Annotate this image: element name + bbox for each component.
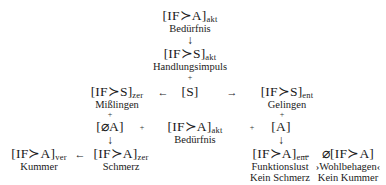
arrow-down-icon: ↓: [275, 134, 287, 146]
formula: [IF≻S]: [91, 84, 133, 99]
arrow-right-icon: →: [300, 148, 312, 160]
node-need: [IF≻A]akt Bedürfnis: [150, 8, 230, 34]
node-wellbeing: ⌀[IF≻A] ›Wohlbehagen‹ Kein Kummer: [312, 146, 384, 183]
formula: [IF≻A]: [94, 146, 138, 161]
label: Gelingen: [252, 99, 322, 110]
plus-icon: +: [186, 74, 194, 82]
arrow-left-icon: ←: [157, 86, 169, 98]
node-a: [A]: [268, 119, 294, 134]
plus-icon: +: [138, 124, 146, 132]
arrow-down-icon: ↓: [184, 34, 196, 46]
formula: [IF≻A]: [11, 146, 55, 161]
plus-icon: +: [106, 111, 114, 119]
node-need-2: [IF≻A]akt Bedürfnis: [155, 119, 235, 145]
node-grief: [IF≻A]ver Kummer: [6, 146, 72, 172]
label: Mißlingen: [82, 99, 152, 110]
formula: [IF≻A]: [253, 146, 297, 161]
plus-icon: +: [278, 111, 286, 119]
formula: [IF≻S]: [164, 46, 206, 61]
formula: [IF≻A]: [168, 119, 212, 134]
label: Bedürfnis: [155, 134, 235, 145]
node-success: [IF≻S]ent Gelingen: [252, 84, 322, 110]
arrow-down-icon: ↓: [104, 134, 116, 146]
formula: [IF≻A]: [163, 8, 207, 23]
label: Kummer: [6, 161, 72, 172]
plus-icon: +: [248, 124, 256, 132]
formula: [IF≻S]: [261, 84, 303, 99]
node-pain: [IF≻A]zer Schmerz: [88, 146, 154, 172]
arrow-right-icon: →: [226, 86, 238, 98]
label-2: Kein Schmerz: [240, 172, 320, 183]
label: ›Wohlbehagen‹: [312, 161, 384, 172]
arrow-left-icon: ←: [74, 148, 86, 160]
label: Funktionslust: [240, 161, 320, 172]
node-impulse: [IF≻S]akt Handlungsimpuls: [140, 46, 240, 72]
node-failure: [IF≻S]zer Mißlingen: [82, 84, 152, 110]
node-not-a: [⌀A]: [92, 119, 128, 134]
formula: ⌀[IF≻A]: [312, 146, 384, 161]
label-2: Kein Kummer: [312, 172, 384, 183]
node-s: [S]: [175, 84, 205, 99]
label: Handlungsimpuls: [140, 61, 240, 72]
label: Schmerz: [88, 161, 154, 172]
